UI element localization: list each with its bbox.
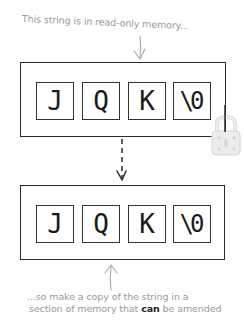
copy-annotation: ...so make a copy of the string in a sec… (27, 291, 221, 315)
emphasis-can: can (141, 303, 160, 314)
copy-arrow-icon (110, 136, 134, 186)
copy-annotation-line-1: ...so make a copy of the string in a (27, 291, 221, 303)
char-cell-q: Q (82, 82, 120, 120)
writable-memory-block: J Q K \0 (20, 185, 225, 260)
char-cell-k: K (128, 205, 166, 243)
copy-annotation-line-2: section of memory that can be amended (29, 303, 221, 315)
char-cell-null-terminator: \0 (173, 82, 211, 120)
read-only-memory-block: J Q K \0 (20, 62, 226, 137)
char-cell-j: J (36, 205, 74, 243)
char-cell-j: J (36, 82, 74, 120)
char-cell-null-terminator: \0 (173, 205, 211, 243)
char-cell-q: Q (82, 205, 120, 243)
padlock-icon (209, 110, 243, 158)
up-arrow-icon (100, 262, 124, 294)
char-cell-k: K (128, 82, 166, 120)
read-only-annotation: This string is in read-only memory... (22, 13, 189, 32)
